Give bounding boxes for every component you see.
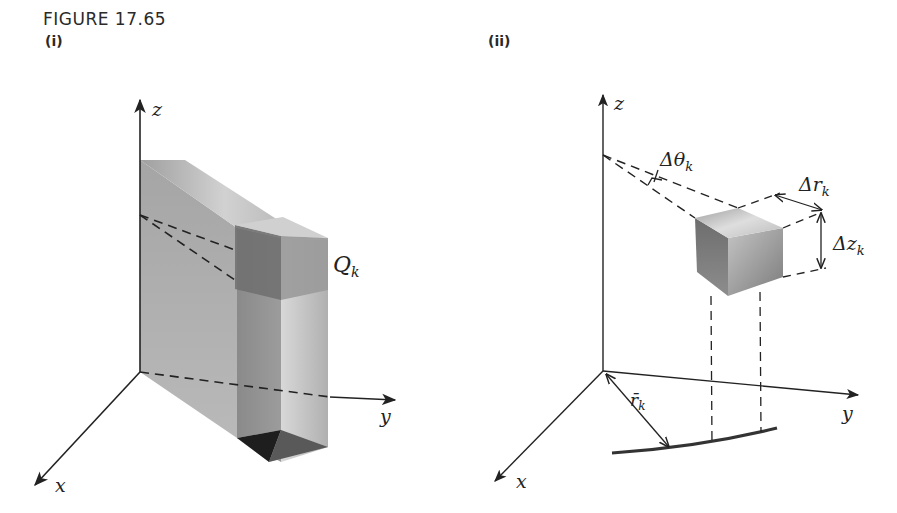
delta-z-label: Δzk (832, 232, 865, 258)
x-axis-label-ii: x (516, 470, 527, 492)
dash-extension-back (738, 193, 780, 208)
x-axis-i (35, 372, 140, 485)
x-axis-ii (495, 371, 603, 481)
delta-theta-pointer (654, 170, 658, 182)
dash-extension-top (783, 212, 822, 228)
dash-extension-bottom (783, 268, 826, 277)
projection-line-2 (760, 292, 761, 432)
z-axis-label-i: z (151, 98, 163, 120)
wedge-solid (140, 160, 328, 462)
base-arc (612, 428, 777, 453)
figure-canvas: z x y Qk r̄k (0, 0, 897, 513)
x-axis-label-i: x (55, 474, 66, 496)
delta-r-arrow (775, 195, 822, 210)
y-axis-ii (603, 371, 858, 395)
delta-theta-label: Δθk (659, 148, 693, 174)
projection-line-1 (711, 296, 712, 446)
panel-ii-diagram: r̄k z x y Δθk Δrk Δzk (495, 92, 865, 492)
y-axis-label-i: y (379, 405, 391, 427)
delta-r-label: Δrk (798, 173, 830, 199)
z-axis-label-ii: z (613, 92, 625, 114)
volume-element-cube (695, 208, 783, 296)
y-axis-label-ii: y (841, 402, 853, 424)
r-bar-label: r̄k (630, 390, 645, 413)
y-axis-i (330, 397, 395, 400)
panel-i-diagram: z x y Qk (35, 98, 395, 496)
q-k-label: Qk (333, 252, 360, 280)
